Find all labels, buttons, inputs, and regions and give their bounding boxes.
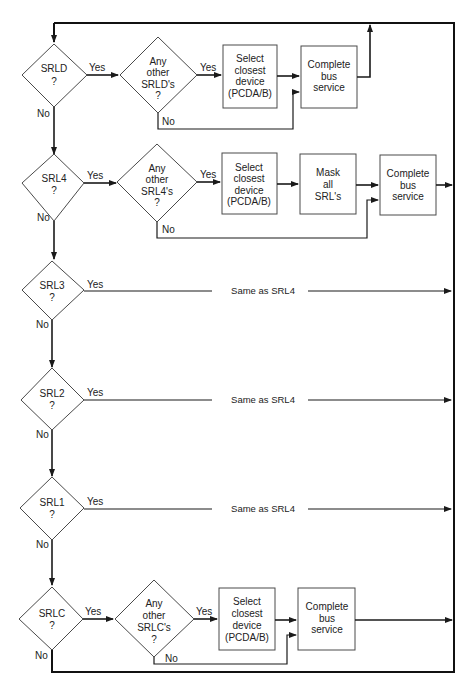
- svg-text:?: ?: [51, 185, 57, 196]
- row-srl3: SRL3 ? Yes Same as SRL4 No: [22, 261, 451, 367]
- svg-text:SRLD's: SRLD's: [141, 79, 175, 90]
- svg-text:Complete: Complete: [387, 168, 430, 179]
- svg-text:Select: Select: [235, 162, 263, 173]
- svg-text:?: ?: [49, 400, 55, 411]
- svg-text:Complete: Complete: [306, 601, 349, 612]
- svg-text:SRL2: SRL2: [39, 388, 64, 399]
- yes-label: Yes: [200, 169, 216, 180]
- no-label: No: [36, 429, 49, 440]
- svg-text:SRLC: SRLC: [39, 608, 66, 619]
- svg-text:SRLC's: SRLC's: [137, 622, 171, 633]
- svg-text:device: device: [233, 620, 262, 631]
- yes-label: Yes: [196, 606, 212, 617]
- svg-text:SRL3: SRL3: [39, 280, 64, 291]
- row-srl4: SRL4 ? Yes No Any other SRL4's ? Yes No …: [22, 144, 452, 259]
- yes-label: Yes: [87, 279, 103, 290]
- svg-text:(PCDA/B): (PCDA/B): [227, 196, 271, 207]
- no-label: No: [36, 319, 49, 330]
- svg-text:Select: Select: [233, 596, 261, 607]
- svg-text:Complete: Complete: [308, 59, 351, 70]
- svg-text:SRL4: SRL4: [41, 173, 66, 184]
- svg-text:Select: Select: [236, 53, 264, 64]
- svg-text:bus: bus: [400, 180, 416, 191]
- svg-text:service: service: [392, 191, 424, 202]
- no-label: No: [37, 108, 50, 119]
- decision-srl2: [21, 368, 84, 430]
- same-as-label: Same as SRL4: [231, 285, 295, 296]
- svg-text:bus: bus: [319, 613, 335, 624]
- svg-text:closest: closest: [231, 608, 262, 619]
- no-label: No: [165, 653, 178, 664]
- yes-label: Yes: [87, 387, 103, 398]
- svg-text:?: ?: [151, 634, 157, 645]
- same-as-label: Same as SRL4: [231, 394, 295, 405]
- svg-text:?: ?: [51, 76, 57, 87]
- no-label: No: [162, 224, 175, 235]
- svg-text:Any: Any: [145, 598, 162, 609]
- row-srl2: SRL2 ? Yes Same as SRL4 No: [21, 368, 451, 476]
- svg-text:SRL1: SRL1: [39, 497, 64, 508]
- return-loop: [52, 23, 454, 672]
- svg-text:Any: Any: [148, 163, 165, 174]
- svg-text:other: other: [147, 67, 170, 78]
- svg-text:SRL's: SRL's: [315, 191, 341, 202]
- svg-text:all: all: [323, 179, 333, 190]
- yes-label: Yes: [87, 496, 103, 507]
- no-label: No: [162, 116, 175, 127]
- svg-text:SRL4's: SRL4's: [141, 186, 173, 197]
- no-label: No: [37, 212, 50, 223]
- svg-text:Any: Any: [149, 56, 166, 67]
- yes-label: Yes: [87, 170, 103, 181]
- svg-text:?: ?: [49, 292, 55, 303]
- svg-text:closest: closest: [233, 173, 264, 184]
- svg-text:?: ?: [155, 90, 161, 101]
- row-srlc: SRLC ? Yes No Any other SRLC's ? Yes No …: [19, 580, 452, 664]
- row-srld: SRLD ? Yes No Any other SRLD's ? Yes No …: [22, 25, 370, 154]
- no-label: No: [35, 650, 48, 661]
- yes-label: Yes: [85, 606, 101, 617]
- svg-text:(PCDA/B): (PCDA/B): [228, 88, 272, 99]
- svg-text:?: ?: [154, 197, 160, 208]
- same-as-label: Same as SRL4: [231, 503, 295, 514]
- svg-text:other: other: [143, 610, 166, 621]
- svg-text:Mask: Mask: [316, 167, 341, 178]
- svg-text:service: service: [311, 624, 343, 635]
- svg-text:service: service: [313, 82, 345, 93]
- yes-label: Yes: [200, 62, 216, 73]
- svg-text:?: ?: [49, 509, 55, 520]
- svg-text:device: device: [236, 76, 265, 87]
- row-srl1: SRL1 ? Yes Same as SRL4 No: [20, 477, 451, 585]
- svg-text:(PCDA/B): (PCDA/B): [225, 632, 269, 643]
- svg-text:bus: bus: [321, 71, 337, 82]
- yes-label: Yes: [89, 62, 105, 73]
- no-label: No: [36, 539, 49, 550]
- svg-text:other: other: [146, 174, 169, 185]
- svg-text:SRLD: SRLD: [41, 63, 68, 74]
- svg-text:device: device: [235, 185, 264, 196]
- flowchart-canvas: SRLD ? Yes No Any other SRLD's ? Yes No …: [0, 0, 472, 690]
- svg-text:?: ?: [49, 620, 55, 631]
- svg-text:closest: closest: [234, 65, 265, 76]
